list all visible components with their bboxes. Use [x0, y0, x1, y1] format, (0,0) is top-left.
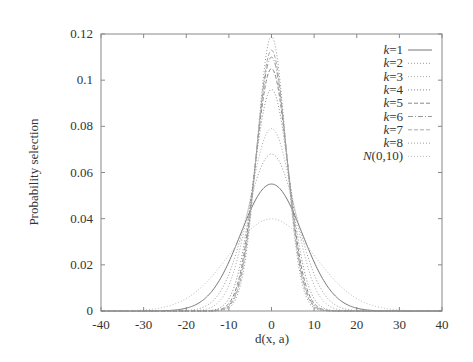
- x-tick-label: 0: [268, 317, 275, 332]
- y-axis-title: Probability selection: [26, 118, 41, 226]
- x-tick-label: -30: [135, 317, 152, 332]
- legend-label: N(0,10): [362, 148, 403, 163]
- x-tick-label: -10: [220, 317, 237, 332]
- y-tick-label: 0.1: [77, 72, 93, 87]
- y-tick-label: 0.08: [70, 118, 93, 133]
- series-line-1: [101, 184, 442, 311]
- x-tick-label: 30: [393, 317, 406, 332]
- y-tick-label: 0: [87, 303, 94, 318]
- legend: k=1k=2k=3k=4k=5k=6k=7k=8N(0,10): [362, 42, 432, 163]
- x-tick-label: -20: [178, 317, 195, 332]
- x-axis-title: d(x, a): [255, 331, 289, 346]
- chart: -40-30-20-10010203040 00.020.040.060.080…: [0, 0, 473, 362]
- y-tick-label: 0.12: [70, 26, 93, 41]
- series-line-9: [101, 219, 442, 311]
- x-tick-label: 10: [308, 317, 321, 332]
- x-tick-label: -40: [92, 317, 109, 332]
- y-tick-label: 0.04: [70, 211, 93, 226]
- y-tick-label: 0.06: [70, 165, 93, 180]
- series-line-2: [101, 154, 442, 311]
- y-tick-label: 0.02: [70, 257, 93, 272]
- x-tick-label: 40: [436, 317, 449, 332]
- x-tick-label: 20: [350, 317, 363, 332]
